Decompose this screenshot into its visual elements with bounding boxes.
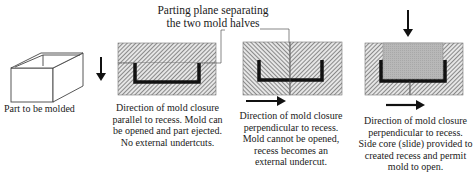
caption-perpendicular: Direction of mold closure perpendicular … (236, 110, 346, 168)
arrow-down-icon (96, 57, 106, 81)
caption-line: external undercut. (236, 156, 346, 168)
caption-line: perpendicular to recess. (355, 127, 476, 139)
caption-line: perpendicular to recess. (236, 122, 346, 134)
mold-perpendicular (243, 42, 342, 95)
caption-line: Direction of mold closure (110, 102, 225, 114)
title-line-2: the two mold halves (148, 17, 278, 30)
caption-line: be opened and part ejected. (110, 125, 225, 137)
title-line-1: Parting plane separating (148, 4, 278, 17)
caption-parallel: Direction of mold closure parallel to re… (110, 102, 225, 148)
parting-plane-label: Parting plane separating the two mold ha… (148, 4, 278, 30)
caption-line: mold to open. (355, 161, 476, 173)
caption-line: Mold cannot be opened, (236, 133, 346, 145)
caption-line: Direction of mold closure (355, 115, 476, 127)
part-box-icon (11, 53, 83, 102)
caption-line: No external undertcuts. (110, 137, 225, 149)
caption-line: created recess and permit (355, 150, 476, 162)
leader-line (260, 29, 289, 42)
core-arrow-down-icon (403, 10, 413, 37)
arrow-right-icon (246, 96, 286, 106)
caption-line: Direction of mold closure (236, 110, 346, 122)
caption-side-core: Direction of mold closure perpendicular … (355, 115, 476, 173)
mold-side-core (365, 43, 463, 95)
caption-part: Part to be molded (4, 103, 84, 115)
caption-line: parallel to recess. Mold can (110, 114, 225, 126)
caption-part-text: Part to be molded (4, 103, 75, 114)
arrow-right-icon-2 (386, 100, 425, 110)
caption-line: recess becomes an (236, 145, 346, 157)
caption-line: Side core (slide) provided to (355, 138, 476, 150)
mold-parallel (118, 30, 225, 95)
